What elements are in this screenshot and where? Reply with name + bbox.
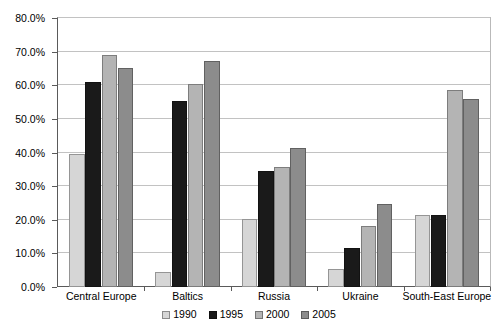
legend-swatch-icon: [301, 311, 309, 319]
legend-entry[interactable]: 1995: [209, 309, 243, 320]
bar[interactable]: [204, 61, 220, 287]
bar[interactable]: [431, 215, 447, 287]
legend-label: 2005: [312, 309, 335, 320]
y-axis-tick-label: 30.0%: [15, 181, 45, 192]
x-axis-tick-label: Central Europe: [66, 290, 137, 303]
bar[interactable]: [361, 226, 377, 287]
bar[interactable]: [447, 90, 463, 287]
bar[interactable]: [258, 171, 274, 287]
bar[interactable]: [69, 154, 85, 287]
x-axis-tick-label: Russia: [258, 290, 290, 303]
y-axis-tick-mark: [52, 18, 57, 19]
y-axis-tick-label: 40.0%: [15, 147, 45, 158]
bar[interactable]: [344, 248, 360, 287]
legend-label: 1990: [173, 309, 196, 320]
y-axis-tick-label: 70.0%: [15, 46, 45, 57]
legend-swatch-icon: [162, 311, 170, 319]
legend-label: 1995: [220, 309, 243, 320]
bar[interactable]: [188, 84, 204, 287]
bar[interactable]: [328, 269, 344, 287]
legend-label: 2000: [266, 309, 289, 320]
bar[interactable]: [118, 68, 134, 287]
bar-chart: 0.0%10.0%20.0%30.0%40.0%50.0%60.0%70.0%8…: [0, 0, 498, 336]
y-axis-tick-mark: [52, 52, 57, 53]
bar[interactable]: [463, 99, 479, 287]
legend-entry[interactable]: 1990: [162, 309, 196, 320]
legend-swatch-icon: [255, 311, 263, 319]
bar-group: [404, 18, 490, 287]
y-axis-tick-mark: [52, 220, 57, 221]
x-axis-tick-label: Baltics: [172, 290, 203, 303]
bars-layer: [58, 18, 490, 287]
bar-group: [144, 18, 230, 287]
bar[interactable]: [85, 82, 101, 287]
y-axis-tick-mark: [52, 253, 57, 254]
legend-entry[interactable]: 2005: [301, 309, 335, 320]
y-axis-tick-mark: [52, 186, 57, 187]
y-axis-tick-label: 80.0%: [15, 13, 45, 24]
bar-group: [317, 18, 403, 287]
y-axis-tick-mark: [52, 287, 57, 288]
x-axis-tick-label: South-East Europe: [402, 290, 491, 303]
bar[interactable]: [155, 272, 171, 287]
legend-entry[interactable]: 2000: [255, 309, 289, 320]
y-axis-tick-label: 0.0%: [21, 282, 45, 293]
y-axis-tick-label: 60.0%: [15, 80, 45, 91]
bar-group: [231, 18, 317, 287]
y-axis-tick-mark: [52, 85, 57, 86]
y-axis: 0.0%10.0%20.0%30.0%40.0%50.0%60.0%70.0%8…: [0, 0, 52, 336]
y-axis-tick-mark: [52, 153, 57, 154]
bar[interactable]: [274, 167, 290, 287]
y-axis-tick-label: 50.0%: [15, 113, 45, 124]
bar[interactable]: [290, 148, 306, 287]
bar[interactable]: [242, 219, 258, 287]
bar[interactable]: [172, 101, 188, 287]
legend-swatch-icon: [209, 311, 217, 319]
bar[interactable]: [377, 204, 393, 287]
y-axis-tick-label: 10.0%: [15, 248, 45, 259]
bar-group: [58, 18, 144, 287]
y-axis-tick-mark: [52, 119, 57, 120]
x-axis: Central EuropeBalticsRussiaUkraineSouth-…: [58, 290, 490, 308]
y-axis-tick-label: 20.0%: [15, 214, 45, 225]
legend: 1990199520002005: [0, 309, 498, 320]
bar[interactable]: [415, 215, 431, 287]
x-axis-tick-label: Ukraine: [342, 290, 378, 303]
bar[interactable]: [102, 55, 118, 287]
